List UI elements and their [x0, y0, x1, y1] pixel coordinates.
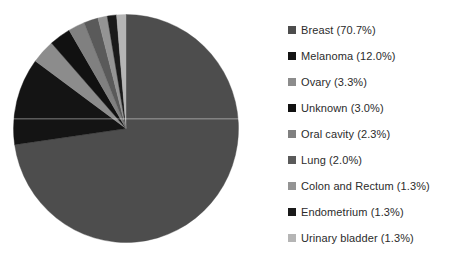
legend-item-label: Urinary bladder (1.3%)	[301, 232, 414, 244]
legend-item-label: Lung (2.0%)	[301, 154, 362, 166]
legend-swatch-icon	[288, 234, 296, 242]
chart-figure: Breast (70.7%)Melanoma (12.0%)Ovary (3.3…	[0, 0, 460, 262]
legend-swatch-icon	[288, 104, 296, 112]
legend-swatch-icon	[288, 208, 296, 216]
legend-item[interactable]: Colon and Rectum (1.3%)	[288, 173, 456, 199]
chart-legend: Breast (70.7%)Melanoma (12.0%)Ovary (3.3…	[288, 17, 456, 251]
legend-item[interactable]: Ovary (3.3%)	[288, 69, 456, 95]
legend-item[interactable]: Urinary bladder (1.3%)	[288, 225, 456, 251]
legend-item[interactable]: Endometrium (1.3%)	[288, 199, 456, 225]
legend-item[interactable]: Unknown (3.0%)	[288, 95, 456, 121]
pie-slice-group	[14, 14, 239, 242]
legend-item[interactable]: Oral cavity (2.3%)	[288, 121, 456, 147]
legend-swatch-icon	[288, 182, 296, 190]
legend-item-label: Oral cavity (2.3%)	[301, 128, 390, 140]
legend-swatch-icon	[288, 52, 296, 60]
pie-chart	[13, 14, 239, 243]
legend-swatch-icon	[288, 26, 296, 34]
legend-item-label: Melanoma (12.0%)	[301, 50, 396, 62]
legend-item[interactable]: Breast (70.7%)	[288, 17, 456, 43]
legend-swatch-icon	[288, 78, 296, 86]
legend-item[interactable]: Melanoma (12.0%)	[288, 43, 456, 69]
legend-swatch-icon	[288, 156, 296, 164]
legend-item-label: Colon and Rectum (1.3%)	[301, 180, 430, 192]
legend-item-label: Breast (70.7%)	[301, 24, 376, 36]
legend-item-label: Unknown (3.0%)	[301, 102, 384, 114]
legend-item-label: Ovary (3.3%)	[301, 76, 367, 88]
pie-chart-svg	[13, 14, 239, 243]
legend-swatch-icon	[288, 130, 296, 138]
legend-item[interactable]: Lung (2.0%)	[288, 147, 456, 173]
legend-item-label: Endometrium (1.3%)	[301, 206, 404, 218]
